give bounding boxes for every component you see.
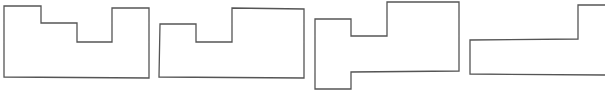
stepped-shape-1 (4, 6, 149, 78)
stepped-shape-2 (159, 8, 304, 78)
shapes-figure (0, 0, 605, 92)
stepped-shape-4 (470, 5, 605, 75)
stepped-shape-3 (315, 2, 459, 89)
